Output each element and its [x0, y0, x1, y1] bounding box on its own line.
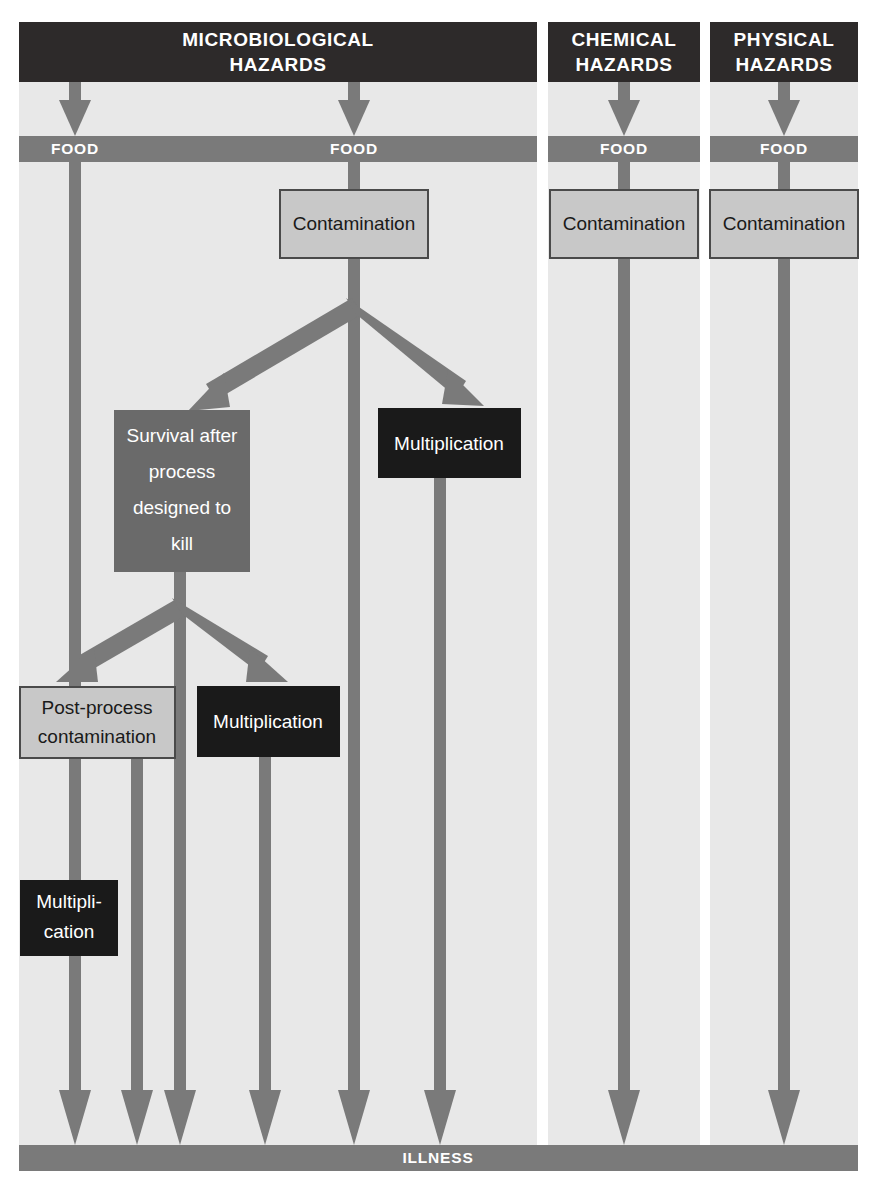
header-microbiological-line2: HAZARDS	[229, 54, 326, 75]
flow-line-chem-contamination-to-illness	[618, 255, 630, 1100]
header-microbiological-line1: MICROBIOLOGICAL	[182, 29, 374, 50]
node-phys-contamination[interactable]: Contamination	[710, 190, 858, 258]
food-label-chemical: FOOD	[600, 140, 648, 157]
node-micro-post-process-contamination[interactable]: Post-process contamination	[20, 687, 175, 758]
food-label-micro-left: FOOD	[51, 140, 99, 157]
node-micro-contamination-label: Contamination	[293, 213, 416, 234]
flow-line-contamination-direct-to-illness	[348, 300, 360, 1100]
header-physical-line1: PHYSICAL	[734, 29, 835, 50]
flow-line-food-left-to-postprocess	[69, 160, 81, 690]
header-physical-line2: HAZARDS	[735, 54, 832, 75]
node-micro-multiplication-2[interactable]: Multiplication	[197, 686, 340, 757]
node-micro-survival-line3: designed to	[133, 497, 231, 518]
flow-line-phys-contamination-to-illness	[778, 255, 790, 1100]
flow-line-multiplication2-to-illness	[259, 750, 271, 1100]
node-micro-multiplication-1[interactable]: Multiplication	[378, 408, 521, 478]
flow-line-survival-direct-to-illness	[174, 600, 186, 1100]
node-micro-survival-line4: kill	[171, 533, 193, 554]
node-micro-postprocess-line2: contamination	[38, 726, 156, 747]
food-label-micro-centre: FOOD	[330, 140, 378, 157]
node-micro-multiplication-2-label: Multiplication	[213, 711, 323, 732]
node-micro-multiplication-3-line2: cation	[44, 921, 95, 942]
node-micro-survival[interactable]: Survival after process designed to kill	[114, 410, 250, 572]
food-label-physical: FOOD	[760, 140, 808, 157]
node-micro-postprocess-line1: Post-process	[42, 697, 153, 718]
node-micro-survival-line2: process	[149, 461, 216, 482]
node-chem-contamination-label: Contamination	[563, 213, 686, 234]
node-micro-multiplication-1-label: Multiplication	[394, 433, 504, 454]
panel-bg-microbiological	[19, 82, 537, 1145]
node-micro-multiplication-3[interactable]: Multipli- cation	[20, 880, 118, 956]
node-chem-contamination[interactable]: Contamination	[550, 190, 698, 258]
hazard-flow-diagram: MICROBIOLOGICAL HAZARDS CHEMICAL HAZARDS…	[0, 0, 878, 1201]
node-micro-multiplication-3-line1: Multipli-	[36, 891, 101, 912]
node-phys-contamination-label: Contamination	[723, 213, 846, 234]
node-micro-survival-line1: Survival after	[127, 425, 239, 446]
node-micro-contamination[interactable]: Contamination	[280, 190, 428, 258]
illness-bar-label: ILLNESS	[402, 1149, 473, 1166]
header-chemical-line2: HAZARDS	[575, 54, 672, 75]
flow-line-multiplication1-to-illness	[434, 470, 446, 1100]
diagram-canvas: MICROBIOLOGICAL HAZARDS CHEMICAL HAZARDS…	[0, 0, 878, 1201]
header-chemical-line1: CHEMICAL	[571, 29, 676, 50]
flow-line-postprocess-branch-to-illness	[131, 750, 143, 1100]
